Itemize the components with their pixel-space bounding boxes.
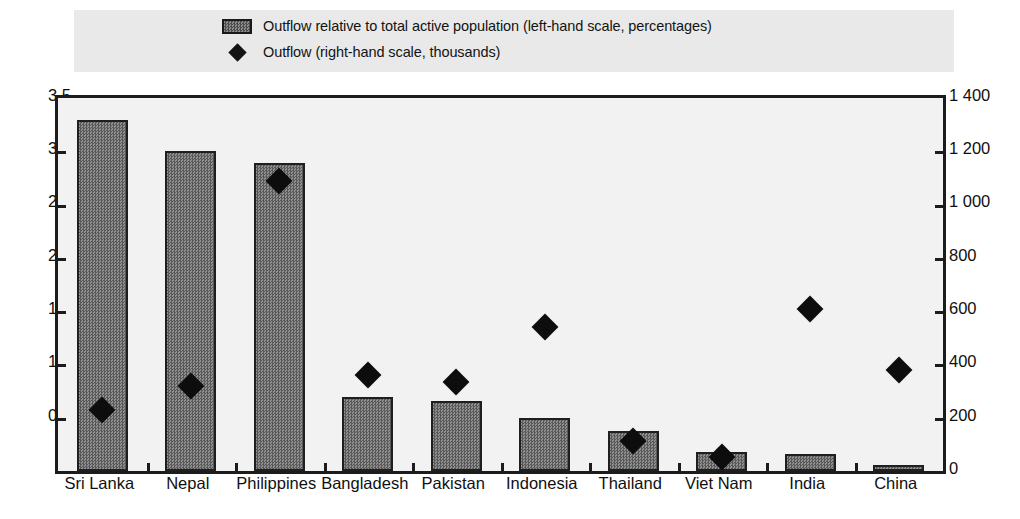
y2-axis-tick-400: 400 — [949, 352, 977, 371]
x-axis-label-philippines: Philippines — [236, 474, 316, 493]
bar-pakistan — [431, 401, 482, 471]
y-axis-tick-mark — [57, 311, 66, 314]
y2-axis-tick-mark — [935, 205, 944, 208]
x-axis-tick-mark — [855, 463, 858, 472]
chart-figure: Outflow relative to total active populat… — [0, 0, 1020, 519]
bar-china — [873, 465, 924, 471]
bar-philippines — [254, 163, 305, 471]
plot-area — [55, 95, 946, 474]
x-axis-label-china: China — [874, 474, 917, 493]
x-axis-tick-mark — [235, 463, 238, 472]
x-axis-tick-mark — [501, 463, 504, 472]
x-axis-tick-mark — [678, 463, 681, 472]
marker-india — [797, 295, 824, 322]
legend-label-markers: Outflow (right-hand scale, thousands) — [263, 44, 500, 60]
x-axis-label-viet-nam: Viet Nam — [685, 474, 753, 493]
x-axis-label-thailand: Thailand — [599, 474, 662, 493]
x-axis-tick-mark — [147, 463, 150, 472]
y-axis-tick-mark — [57, 418, 66, 421]
marker-china — [885, 357, 912, 384]
x-axis-label-indonesia: Indonesia — [506, 474, 578, 493]
legend-label-bars: Outflow relative to total active populat… — [263, 18, 712, 34]
diamond-marker-icon — [222, 44, 252, 60]
bar-india — [785, 454, 836, 471]
y2-axis-tick-1200: 1 200 — [949, 139, 990, 158]
x-axis-tick-mark — [589, 463, 592, 472]
x-axis-label-india: India — [789, 474, 825, 493]
legend-item-markers: Outflow (right-hand scale, thousands) — [222, 44, 500, 60]
y2-axis-tick-mark — [935, 151, 944, 154]
chart-legend: Outflow relative to total active populat… — [74, 10, 954, 72]
bar-swatch-icon — [222, 19, 252, 34]
marker-indonesia — [531, 314, 558, 341]
y-axis-tick-mark — [57, 258, 66, 261]
y2-axis-tick-mark — [935, 311, 944, 314]
y2-axis-tick-mark — [935, 418, 944, 421]
marker-pakistan — [443, 368, 470, 395]
x-axis-tick-mark — [324, 463, 327, 472]
y2-axis-tick-200: 200 — [949, 406, 977, 425]
plot-wrapper: 3.5 3.0 2.5 2.0 1.5 1.0 0.5 0 1 400 1 20… — [0, 80, 1020, 519]
x-axis-label-nepal: Nepal — [166, 474, 209, 493]
y-axis-tick-mark — [57, 364, 66, 367]
marker-bangladesh — [354, 362, 381, 389]
x-axis-tick-mark — [766, 463, 769, 472]
bar-nepal — [165, 151, 216, 471]
y-axis-tick-mark — [57, 205, 66, 208]
y2-axis-tick-0: 0 — [949, 459, 958, 478]
y2-axis-tick-1000: 1 000 — [949, 192, 990, 211]
y2-axis-tick-800: 800 — [949, 246, 977, 265]
y2-axis-tick-600: 600 — [949, 299, 977, 318]
bar-bangladesh — [342, 397, 393, 471]
y2-axis-tick-mark — [935, 364, 944, 367]
y2-axis-tick-1400: 1 400 — [949, 86, 990, 105]
bar-indonesia — [519, 418, 570, 471]
x-axis-tick-mark — [412, 463, 415, 472]
x-axis-label-bangladesh: Bangladesh — [321, 474, 408, 493]
y-axis-tick-mark — [57, 151, 66, 154]
legend-item-bars: Outflow relative to total active populat… — [222, 18, 712, 34]
y2-axis-tick-mark — [935, 258, 944, 261]
x-axis-label-sri-lanka: Sri Lanka — [64, 474, 134, 493]
x-axis-label-pakistan: Pakistan — [422, 474, 485, 493]
